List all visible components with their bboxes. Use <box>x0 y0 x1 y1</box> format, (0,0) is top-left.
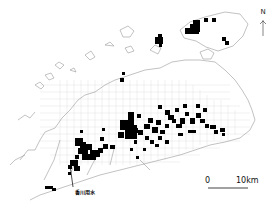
distribution-map: N 0 10km 香川用水 <box>0 0 278 205</box>
map-canvas <box>0 0 278 205</box>
north-label: N <box>258 8 268 36</box>
scale-start-label: 0 <box>205 176 210 185</box>
grid-lines <box>40 80 250 165</box>
kagawa-canal-label: 香川用水 <box>75 188 95 195</box>
scale-end-label: 10km <box>236 176 259 185</box>
